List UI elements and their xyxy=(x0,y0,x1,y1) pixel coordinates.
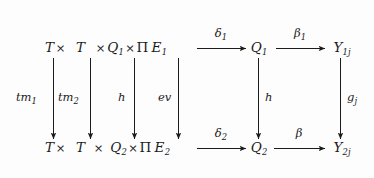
times-operator: × xyxy=(94,41,107,55)
subscript: 1 xyxy=(118,47,123,57)
arrow-label-beta: β xyxy=(296,128,303,140)
arrow-label-delta1: δ1 xyxy=(215,28,227,40)
subscript: j xyxy=(354,96,357,106)
subscript: 1 xyxy=(162,47,167,57)
subscript: 2 xyxy=(74,96,79,106)
subscript: 2j xyxy=(343,147,351,157)
node-bottom-right-Y2j: Y2j xyxy=(333,141,350,155)
node-label: Q xyxy=(251,139,262,155)
subscript: 1 xyxy=(262,47,267,57)
node-bottom-T1: T xyxy=(45,139,54,155)
subscript: 1j xyxy=(343,47,351,57)
times-operator: × xyxy=(54,41,67,55)
node-top-left-expression: T×T×Q1×ΠE1 xyxy=(45,41,167,55)
node-bottom-Q2: Q xyxy=(110,139,121,155)
arrow-label-h-mid: h xyxy=(265,92,272,104)
times-operator: × xyxy=(54,141,67,155)
subscript: 2 xyxy=(121,147,126,157)
subscript: 1 xyxy=(222,32,227,42)
node-top-Q1: Q xyxy=(107,39,118,55)
arrow-label-tm1: tm1 xyxy=(16,92,37,104)
node-top-T1: T xyxy=(45,39,54,55)
product-pi-symbol: Π xyxy=(140,139,152,155)
label-base: tm xyxy=(58,90,74,104)
node-top-T2: T xyxy=(76,39,85,55)
product-pi-symbol: Π xyxy=(137,39,149,55)
label-base: tm xyxy=(16,90,32,104)
node-top-E1: E xyxy=(152,39,162,55)
arrow-label-gj: gj xyxy=(347,92,357,104)
commutative-diagram: T×T×Q1×ΠE1 Q1 Y1j T×T×Q2×ΠE2 Q2 Y2j δ1 β… xyxy=(0,0,374,178)
times-operator: × xyxy=(92,141,105,155)
arrow-label-ev: ev xyxy=(158,92,171,104)
node-bottom-left-expression: T×T×Q2×ΠE2 xyxy=(45,141,170,155)
arrow-label-delta2: δ2 xyxy=(215,128,227,140)
arrow-label-beta1: β1 xyxy=(294,28,306,40)
subscript: 2 xyxy=(222,132,227,142)
label-base: β xyxy=(296,126,303,140)
label-base: h xyxy=(118,90,125,104)
subscript: 1 xyxy=(301,32,306,42)
times-operator: × xyxy=(127,141,140,155)
arrow-label-tm2: tm2 xyxy=(58,92,79,104)
label-base: δ xyxy=(215,126,222,140)
node-bottom-T2: T xyxy=(76,139,85,155)
subscript: 1 xyxy=(32,96,37,106)
times-operator: × xyxy=(124,41,137,55)
label-base: h xyxy=(265,90,272,104)
node-label: Y xyxy=(333,39,342,55)
node-label: Y xyxy=(333,139,342,155)
node-bottom-mid-Q2: Q2 xyxy=(251,141,268,155)
label-base: δ xyxy=(215,26,222,40)
node-top-right-Y1j: Y1j xyxy=(333,41,350,55)
node-bottom-E2: E xyxy=(155,139,165,155)
node-top-mid-Q1: Q1 xyxy=(251,41,268,55)
label-base: ev xyxy=(158,90,171,104)
label-base: β xyxy=(294,26,301,40)
arrow-label-h-left: h xyxy=(118,92,125,104)
subscript: 2 xyxy=(262,147,267,157)
subscript: 2 xyxy=(165,147,170,157)
node-label: Q xyxy=(251,39,262,55)
